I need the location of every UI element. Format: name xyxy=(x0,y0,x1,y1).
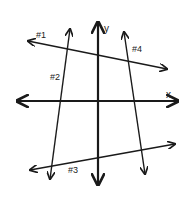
diagram-svg: xy#1#2#3#4 xyxy=(0,0,188,197)
y-axis-label: y xyxy=(104,23,109,34)
labels: xy#1#2#3#4 xyxy=(36,23,171,175)
coordinate-diagram: xy#1#2#3#4 xyxy=(0,0,188,197)
line-label-2: #2 xyxy=(50,72,60,82)
line-label-1: #1 xyxy=(36,30,46,40)
x-axis-label: x xyxy=(166,89,171,100)
line-label-3: #3 xyxy=(68,165,78,175)
line-label-4: #4 xyxy=(132,44,142,54)
line-2 xyxy=(50,29,70,179)
line-3 xyxy=(30,144,175,170)
lines xyxy=(28,29,175,179)
axes xyxy=(17,22,178,185)
